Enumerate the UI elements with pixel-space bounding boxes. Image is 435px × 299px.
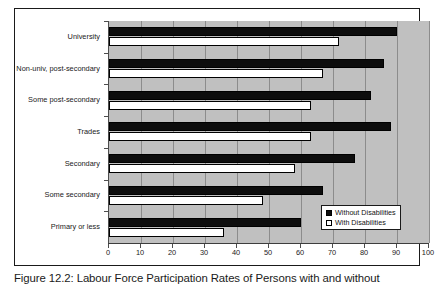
- x-axis-tick-label: 100: [422, 249, 434, 256]
- y-axis-label: Primary or less: [51, 223, 100, 230]
- legend-item-without-disabilities: Without Disabilities: [326, 209, 396, 216]
- bar-with-disabilities: [109, 37, 339, 46]
- x-axis-tick-label: 50: [264, 249, 272, 256]
- bar-row: [109, 116, 429, 148]
- bar-row: [109, 53, 429, 85]
- bar-without-disabilities: [109, 59, 384, 68]
- bar-without-disabilities: [109, 91, 371, 100]
- x-axis-tick-label: 0: [106, 249, 110, 256]
- y-axis-label: Non-univ, post-secondary: [16, 65, 100, 72]
- bar-with-disabilities: [109, 69, 323, 78]
- y-axis-label: Some secondary: [45, 191, 100, 198]
- x-axis-tick-labels: 0102030405060708090100: [108, 249, 429, 261]
- x-axis-tick-label: 70: [328, 249, 336, 256]
- x-axis-tick-label: 20: [168, 249, 176, 256]
- y-axis-labels: UniversityNon-univ, post-secondarySome p…: [15, 21, 104, 243]
- bar-with-disabilities: [109, 164, 295, 173]
- bar-with-disabilities: [109, 101, 311, 110]
- figure-container: UniversityNon-univ, post-secondarySome p…: [0, 0, 435, 299]
- legend-label-without-disabilities: Without Disabilities: [335, 209, 396, 216]
- open-square-icon: [326, 220, 332, 226]
- x-axis-tick-label: 60: [296, 249, 304, 256]
- bar-without-disabilities: [109, 218, 301, 227]
- bar-with-disabilities: [109, 228, 224, 237]
- figure-caption: Figure 12.2: Labour Force Participation …: [14, 272, 424, 285]
- y-axis-label: University: [68, 33, 100, 40]
- bar-row: [109, 148, 429, 180]
- bar-with-disabilities: [109, 196, 263, 205]
- chart-legend: Without Disabilities With Disabilities: [321, 205, 401, 230]
- x-axis-tick-label: 40: [232, 249, 240, 256]
- y-axis-label: Secondary: [65, 160, 100, 167]
- filled-square-icon: [326, 210, 332, 216]
- bar-without-disabilities: [109, 122, 391, 131]
- legend-item-with-disabilities: With Disabilities: [326, 219, 396, 226]
- gridline: [429, 21, 430, 243]
- bar-without-disabilities: [109, 154, 355, 163]
- bar-row: [109, 21, 429, 53]
- bar-with-disabilities: [109, 132, 311, 141]
- y-axis-label: Some post-secondary: [28, 96, 100, 103]
- chart-frame: UniversityNon-univ, post-secondarySome p…: [14, 8, 420, 266]
- x-axis-tick-label: 30: [200, 249, 208, 256]
- bar-without-disabilities: [109, 186, 323, 195]
- x-axis-tick-label: 80: [360, 249, 368, 256]
- legend-label-with-disabilities: With Disabilities: [335, 219, 386, 226]
- bar-without-disabilities: [109, 27, 397, 36]
- y-axis-label: Trades: [77, 128, 100, 135]
- x-axis-tick-label: 90: [392, 249, 400, 256]
- bar-row: [109, 84, 429, 116]
- x-axis-tick-label: 10: [136, 249, 144, 256]
